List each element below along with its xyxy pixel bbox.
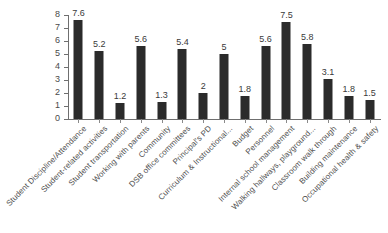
bar-slot[interactable]: 1.5: [359, 15, 380, 119]
bar-value-label: 1.3: [155, 90, 168, 100]
bar-value-label: 1.5: [363, 88, 376, 98]
y-tick-label: 6: [46, 35, 60, 46]
x-tick-mark: [286, 119, 287, 123]
bar-value-label: 5.4: [176, 37, 189, 47]
x-tick-mark: [162, 119, 163, 123]
bar-slot[interactable]: 5.8: [297, 15, 318, 119]
bar-value-label: 1.8: [343, 84, 356, 94]
x-axis-category-label: Classroom walk through: [270, 124, 339, 193]
bar-slot[interactable]: 1.8: [234, 15, 255, 119]
bar-slot[interactable]: 7.6: [68, 15, 89, 119]
bar-slot[interactable]: 3.1: [318, 15, 339, 119]
x-axis-category-label: Curriculum & Instructional...: [156, 124, 234, 202]
bar[interactable]: [261, 46, 270, 119]
bar-value-label: 5.2: [93, 39, 106, 49]
bar-slot[interactable]: 7.5: [276, 15, 297, 119]
bar[interactable]: [365, 100, 374, 120]
x-axis-category-label: DSB office committees: [128, 124, 193, 189]
bar[interactable]: [303, 44, 312, 119]
x-axis-category-label: Student-related activities: [39, 124, 109, 194]
x-tick-mark: [78, 119, 79, 123]
bar-slot[interactable]: 5.6: [130, 15, 151, 119]
x-axis-category-label: Occupational health & safety: [300, 124, 380, 204]
bar-value-label: 2: [201, 81, 206, 91]
x-axis-category-label: Personnel: [243, 124, 275, 156]
x-axis-category-label: Budget: [230, 124, 255, 149]
bar[interactable]: [219, 54, 228, 119]
x-tick-mark: [224, 119, 225, 123]
x-axis-category-label: Building maintenance: [297, 124, 359, 186]
bar-value-label: 1.8: [239, 84, 252, 94]
bar-slot[interactable]: 5.2: [89, 15, 110, 119]
bar[interactable]: [240, 96, 249, 119]
y-tick-label: 0: [46, 113, 60, 124]
x-tick-mark: [328, 119, 329, 123]
bar-value-label: 7.6: [72, 8, 85, 18]
y-tick-label: 2: [46, 87, 60, 98]
bar[interactable]: [282, 22, 291, 120]
x-tick-mark: [203, 119, 204, 123]
y-tick-mark: [64, 119, 68, 120]
bar-value-label: 1.2: [114, 91, 127, 101]
bar-chart: 012345678 7.65.21.25.61.35.4251.85.67.55…: [0, 0, 388, 233]
y-tick-label: 4: [46, 61, 60, 72]
bar[interactable]: [344, 96, 353, 119]
x-tick-mark: [245, 119, 246, 123]
y-tick-label: 5: [46, 48, 60, 59]
bar[interactable]: [199, 93, 208, 119]
bar-slot[interactable]: 5: [214, 15, 235, 119]
y-tick-label: 8: [46, 9, 60, 20]
bar[interactable]: [115, 103, 124, 119]
x-tick-mark: [182, 119, 183, 123]
x-tick-mark: [266, 119, 267, 123]
bar-slot[interactable]: 5.6: [255, 15, 276, 119]
bar[interactable]: [136, 46, 145, 119]
x-axis-category-label: Community: [136, 124, 172, 160]
y-tick-label: 3: [46, 74, 60, 85]
bar-slot[interactable]: 1.2: [110, 15, 131, 119]
bar[interactable]: [95, 51, 104, 119]
bar[interactable]: [323, 79, 332, 119]
x-tick-mark: [120, 119, 121, 123]
x-axis-category-label: Walking hallways, playground...: [230, 124, 318, 212]
bar[interactable]: [74, 20, 83, 119]
bar-value-label: 3.1: [322, 67, 335, 77]
bar-slot[interactable]: 5.4: [172, 15, 193, 119]
x-tick-mark: [307, 119, 308, 123]
plot-area: 012345678 7.65.21.25.61.35.4251.85.67.55…: [68, 15, 380, 119]
bar-series: 7.65.21.25.61.35.4251.85.67.55.83.11.81.…: [68, 15, 380, 119]
bar[interactable]: [178, 49, 187, 119]
bar-slot[interactable]: 2: [193, 15, 214, 119]
x-axis-category-label: Student transportation: [67, 124, 131, 188]
y-tick-label: 7: [46, 22, 60, 33]
bar-slot[interactable]: 1.3: [151, 15, 172, 119]
bar-value-label: 5: [221, 42, 226, 52]
bar[interactable]: [157, 102, 166, 119]
bar-slot[interactable]: 1.8: [338, 15, 359, 119]
x-axis-category-label: Principal's PD: [171, 124, 213, 166]
bar-value-label: 5.8: [301, 32, 314, 42]
x-tick-mark: [349, 119, 350, 123]
bar-value-label: 7.5: [280, 10, 293, 20]
bar-value-label: 5.6: [135, 34, 148, 44]
y-tick-label: 1: [46, 100, 60, 111]
x-tick-mark: [99, 119, 100, 123]
x-tick-mark: [141, 119, 142, 123]
x-axis-category-label: Working with parents: [91, 124, 152, 185]
x-axis-category-label: Internal school management: [217, 124, 297, 204]
x-axis-category-label: Student Discipline/Attendance: [5, 124, 89, 208]
x-tick-mark: [370, 119, 371, 123]
bar-value-label: 5.6: [259, 34, 272, 44]
